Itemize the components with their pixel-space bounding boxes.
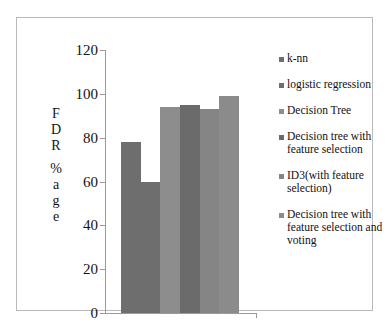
y-axis-title-char: R <box>47 138 65 154</box>
y-axis-tick-label: 0 <box>91 306 99 321</box>
legend-item[interactable]: k-nn <box>279 52 383 65</box>
bar <box>141 182 161 314</box>
x-axis-end-tick <box>256 313 257 318</box>
legend-item[interactable]: Decision tree with feature selection <box>279 130 383 156</box>
legend-item[interactable]: logistic regression <box>279 78 383 91</box>
chart-legend: k-nnlogistic regressionDecision TreeDeci… <box>279 52 383 260</box>
y-axis-title-char: e <box>47 209 65 225</box>
bar-series <box>121 50 239 313</box>
y-axis-tick-label: 120 <box>76 43 99 58</box>
plot-area: 120100806040200 <box>105 50 257 313</box>
y-axis-line <box>105 50 106 313</box>
y-axis-title: F D R % a g e <box>47 106 65 225</box>
y-axis-tick-label: 60 <box>83 174 98 189</box>
legend-swatch-icon <box>279 135 284 140</box>
legend-item-label: k-nn <box>287 52 308 65</box>
y-axis-tick-mark <box>100 94 105 95</box>
legend-item[interactable]: Decision Tree <box>279 104 383 117</box>
x-axis-line <box>105 313 257 314</box>
chart-figure: F D R % a g e 120100806040200 k-nnlogist… <box>0 0 390 327</box>
y-axis-title-spacer <box>47 154 65 161</box>
chart-frame: F D R % a g e 120100806040200 k-nnlogist… <box>16 17 373 311</box>
legend-item[interactable]: Decision tree with feature selection and… <box>279 208 383 247</box>
y-axis-title-char: a <box>47 177 65 193</box>
bar <box>160 107 180 313</box>
legend-item-label: logistic regression <box>287 78 371 91</box>
legend-swatch-icon <box>279 174 284 179</box>
legend-swatch-icon <box>279 109 284 114</box>
y-axis-tick-mark <box>100 225 105 226</box>
y-axis-title-char: g <box>47 193 65 209</box>
legend-swatch-icon <box>279 83 284 88</box>
bar <box>121 142 141 313</box>
legend-swatch-icon <box>279 57 284 62</box>
y-axis-tick-mark <box>100 269 105 270</box>
y-axis-tick-label: 100 <box>76 86 99 101</box>
y-axis-tick-label: 80 <box>83 130 98 145</box>
y-axis-tick-label: 40 <box>83 218 98 233</box>
y-axis-title-char: F <box>47 106 65 122</box>
y-axis-title-char: % <box>47 161 65 177</box>
y-axis-tick-mark <box>100 50 105 51</box>
bar <box>219 96 239 313</box>
legend-item-label: ID3(with feature selection) <box>287 169 383 195</box>
y-axis-tick-label: 20 <box>83 262 98 277</box>
legend-item-label: Decision tree with feature selection and… <box>287 208 383 247</box>
legend-swatch-icon <box>279 213 284 218</box>
y-axis-tick-mark <box>100 313 105 314</box>
legend-item-label: Decision Tree <box>287 104 351 117</box>
legend-item[interactable]: ID3(with feature selection) <box>279 169 383 195</box>
bar <box>200 109 220 313</box>
y-axis-title-char: D <box>47 122 65 138</box>
y-axis-tick-mark <box>100 138 105 139</box>
y-axis-tick-mark <box>100 182 105 183</box>
legend-item-label: Decision tree with feature selection <box>287 130 383 156</box>
bar <box>180 105 200 313</box>
